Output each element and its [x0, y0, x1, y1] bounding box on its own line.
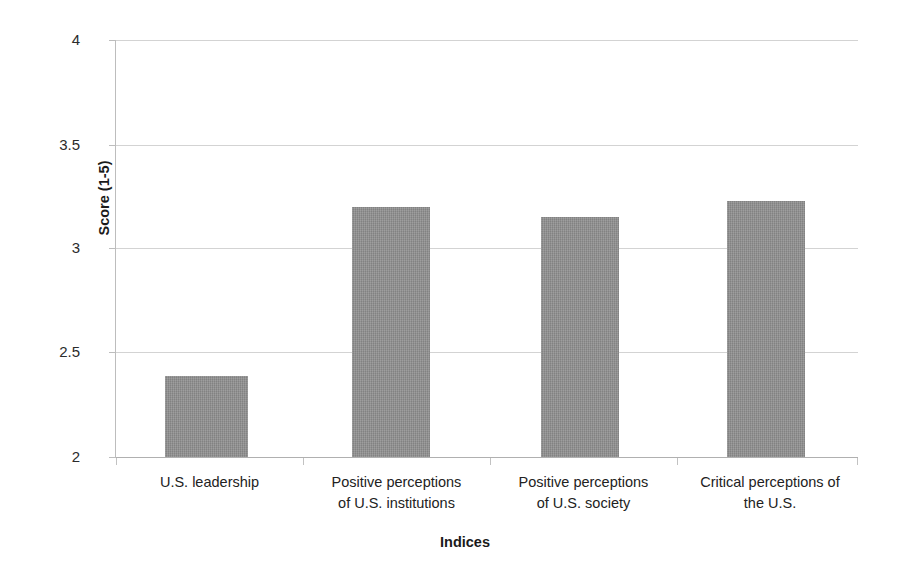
x-tick-mark-4 — [857, 458, 858, 465]
x-tick-mark-3 — [677, 458, 678, 465]
bar-critical-perceptions[interactable] — [727, 201, 805, 457]
category-label-line: of U.S. society — [490, 493, 677, 514]
x-tick-mark-0 — [116, 458, 117, 465]
category-label-critical-perceptions: Critical perceptions of the U.S. — [675, 472, 865, 514]
y-tick-label-2-5: 2.5 — [34, 344, 80, 360]
category-label-line: the U.S. — [675, 493, 865, 514]
category-label-line: of U.S. institutions — [303, 493, 490, 514]
category-label-positive-society: Positive perceptions of U.S. society — [490, 472, 677, 514]
x-axis-title: Indices — [0, 534, 906, 550]
category-label-line: Positive perceptions — [490, 472, 677, 493]
category-label-line: Positive perceptions — [303, 472, 490, 493]
x-tick-mark-1 — [303, 458, 304, 465]
y-tick-label-4: 4 — [34, 32, 80, 48]
gridline-4 — [116, 40, 858, 41]
bar-chart: Score (1-5) 4 3.5 3 2.5 2 U.S. leadershi… — [0, 0, 906, 570]
category-label-us-leadership: U.S. leadership — [116, 472, 303, 493]
x-tick-mark-2 — [490, 458, 491, 465]
y-tick-label-3: 3 — [34, 240, 80, 256]
plot-area — [116, 40, 858, 457]
bar-positive-perceptions-institutions[interactable] — [352, 207, 430, 457]
x-axis-title-text: Indices — [440, 534, 490, 550]
y-axis-title: Score (1-5) — [92, 108, 116, 288]
gridline-3-5 — [116, 145, 858, 146]
category-label-positive-institutions: Positive perceptions of U.S. institution… — [303, 472, 490, 514]
category-label-line: Critical perceptions of — [675, 472, 865, 493]
y-tick-label-3-5: 3.5 — [34, 137, 80, 153]
x-axis-line — [116, 457, 858, 458]
bar-positive-perceptions-society[interactable] — [541, 217, 619, 457]
category-label-line: U.S. leadership — [116, 472, 303, 493]
bar-us-leadership[interactable] — [165, 376, 248, 457]
y-tick-label-2: 2 — [34, 449, 80, 465]
